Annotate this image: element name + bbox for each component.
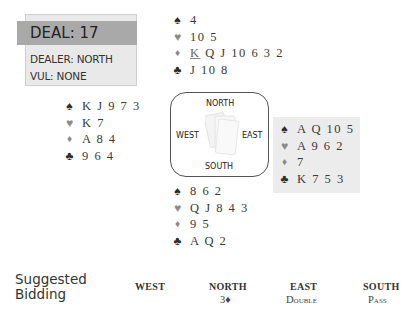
diamond-icon: ♦: [61, 131, 78, 148]
bidding-header-north: NORTH: [209, 281, 247, 292]
heart-icon: ♥: [169, 29, 186, 46]
vulnerability-label: VUL: NONE: [30, 70, 86, 82]
diamond-icon: ♦: [276, 154, 293, 171]
bidding-header-west: WEST: [135, 281, 165, 292]
west-diamonds: ♦ A 8 4: [61, 131, 141, 148]
suggested-bidding-label: Suggested Bidding: [15, 272, 87, 302]
south-hearts: ♥ Q J 8 4 3: [169, 200, 249, 217]
north-hearts: ♥ 10 5: [169, 29, 284, 46]
suggested-bidding-line1: Suggested: [15, 272, 87, 287]
bidding-header-south: SOUTH: [363, 281, 400, 292]
east-diamonds-cards: 7: [297, 154, 305, 171]
south-diamonds: ♦ 9 5: [169, 216, 249, 233]
south-hand: ♠ 8 6 2 ♥ Q J 8 4 3 ♦ 9 5 ♣ A Q 2: [169, 183, 249, 249]
spade-icon: ♠: [61, 98, 78, 115]
club-icon: ♣: [169, 233, 186, 250]
playing-cards-icon: [205, 108, 239, 160]
bidding-header-east: EAST: [290, 281, 317, 292]
compass-west: WEST: [176, 131, 199, 140]
south-hearts-cards: Q J 8 4 3: [190, 200, 249, 217]
bid-east: Double: [286, 294, 317, 305]
south-diamonds-cards: 9 5: [190, 216, 210, 233]
north-spades: ♠ 4: [169, 12, 284, 29]
south-spades: ♠ 8 6 2: [169, 183, 249, 200]
west-hearts: ♥ K 7: [61, 115, 141, 132]
west-hand: ♠ K J 9 7 3 ♥ K 7 ♦ A 8 4 ♣ 9 6 4: [61, 98, 141, 164]
north-hand: ♠ 4 ♥ 10 5 ♦ K Q J 10 6 3 2 ♣ J 10 8: [169, 12, 284, 78]
east-spades-cards: A Q 10 5: [297, 121, 355, 138]
east-spades: ♠ A Q 10 5: [276, 121, 355, 138]
east-hearts: ♥ A 9 6 2: [276, 138, 355, 155]
bid-north: 3♦: [220, 294, 231, 305]
deal-number: DEAL: 17: [17, 21, 137, 45]
west-clubs: ♣ 9 6 4: [61, 148, 141, 165]
south-spades-cards: 8 6 2: [190, 183, 223, 200]
north-diamonds-cards: Q J 10 6 3 2: [201, 45, 284, 62]
east-hand: ♠ A Q 10 5 ♥ A 9 6 2 ♦ 7 ♣ K 7 5 3: [276, 121, 355, 187]
club-icon: ♣: [169, 62, 186, 79]
north-diamonds: ♦ K Q J 10 6 3 2: [169, 45, 284, 62]
west-hearts-cards: K 7: [82, 115, 105, 132]
north-hearts-cards: 10 5: [190, 29, 218, 46]
south-clubs-cards: A Q 2: [190, 233, 227, 250]
suggested-bidding-line2: Bidding: [15, 287, 87, 302]
compass-east: EAST: [242, 131, 263, 140]
compass-south: SOUTH: [205, 162, 233, 171]
club-icon: ♣: [61, 148, 78, 165]
east-hearts-cards: A 9 6 2: [297, 138, 344, 155]
heart-icon: ♥: [169, 200, 186, 217]
west-spades: ♠ K J 9 7 3: [61, 98, 141, 115]
west-spades-cards: K J 9 7 3: [82, 98, 141, 115]
diamond-icon: ♦: [169, 216, 186, 233]
north-clubs: ♣ J 10 8: [169, 62, 284, 79]
south-clubs: ♣ A Q 2: [169, 233, 249, 250]
east-clubs: ♣ K 7 5 3: [276, 171, 355, 188]
west-diamonds-cards: A 8 4: [82, 131, 117, 148]
club-icon: ♣: [276, 171, 293, 188]
spade-icon: ♠: [276, 121, 293, 138]
spade-icon: ♠: [169, 183, 186, 200]
compass-box: NORTH WEST EAST SOUTH: [170, 92, 269, 177]
compass-north: NORTH: [206, 99, 234, 108]
bid-south: Pass: [368, 294, 387, 305]
north-spades-cards: 4: [190, 12, 198, 29]
north-opening-lead-card: K: [190, 45, 201, 62]
north-clubs-cards: J 10 8: [190, 62, 229, 79]
dealer-label: DEALER: NORTH: [30, 53, 113, 65]
east-clubs-cards: K 7 5 3: [297, 171, 345, 188]
heart-icon: ♥: [276, 138, 293, 155]
west-clubs-cards: 9 6 4: [82, 148, 115, 165]
deal-info-box: DEAL: 17 DEALER: NORTH VUL: NONE: [25, 14, 137, 86]
spade-icon: ♠: [169, 12, 186, 29]
east-diamonds: ♦ 7: [276, 154, 355, 171]
heart-icon: ♥: [61, 115, 78, 132]
diamond-icon: ♦: [169, 45, 186, 62]
